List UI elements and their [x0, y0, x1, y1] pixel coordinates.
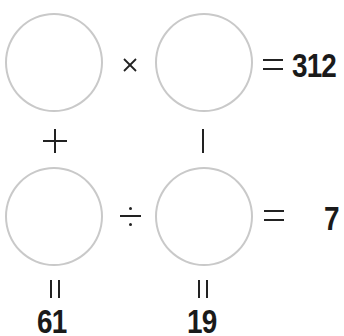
- row2-result: 7: [324, 201, 339, 235]
- cell-bottom-left[interactable]: [5, 167, 103, 266]
- multiply-icon: [122, 57, 138, 73]
- cell-top-right[interactable]: [155, 13, 253, 112]
- col2-result: 19: [187, 304, 216, 336]
- cell-top-left[interactable]: [5, 13, 103, 112]
- multiply-operator: [121, 56, 139, 74]
- row1-result: 312: [292, 48, 336, 82]
- col1-result: 61: [37, 304, 66, 336]
- cell-bottom-right[interactable]: [155, 167, 253, 266]
- minus-operator-vertical: [202, 129, 204, 153]
